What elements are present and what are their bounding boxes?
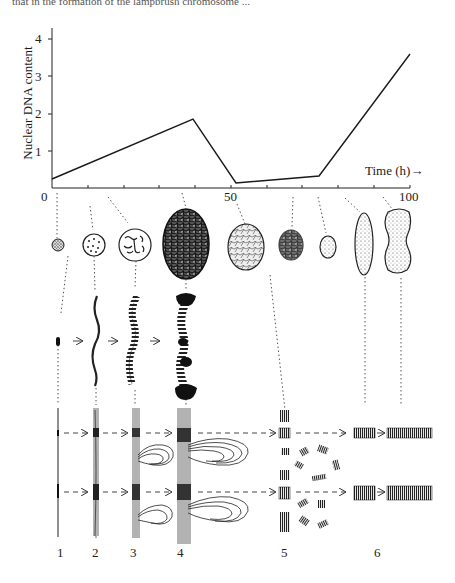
y-tick-label-4: 4 [35,31,42,47]
diagram-canvas [0,0,455,583]
dna-content-chart [48,28,410,188]
nucleus-stage-6c [385,209,411,273]
x-tick-label-0: 0 [41,189,48,205]
y-ticks [48,39,52,151]
bands-stage-6 [354,428,432,500]
nucleus-leader-lines [58,256,401,410]
nucleus-stage-2 [83,234,105,256]
x-tick-label-100: 100 [399,189,419,205]
stage-label-4: 4 [177,545,184,561]
y-tick-label-1: 1 [35,144,42,160]
y-axis-label: Nuclear DNA content [20,43,36,163]
stage-label-3: 3 [130,545,137,561]
nucleus-stage-5 [228,224,264,270]
x-axis-label: Time (h)→ [365,163,423,179]
nucleus-stage-6a [320,236,336,258]
chromosome-stage-1 [56,337,60,346]
nucleus-stage-4 [163,209,209,279]
chromosome-stage-2 [93,296,100,386]
chromosome-stage-3 [129,296,137,384]
x-tick-label-50: 50 [224,189,237,205]
nucleus-stage-1 [52,239,64,251]
stage-label-6: 6 [374,545,381,561]
dna-content-line [52,54,410,183]
stage-label-5: 5 [281,545,288,561]
fragments-stage-5 [279,410,340,532]
strand-stage-2 [94,408,98,538]
lampbrush-row [57,408,432,544]
chromosome-row [56,293,197,400]
y-tick-label-2: 2 [35,106,42,122]
chromosome-knob [176,293,196,306]
loops-stage-3 [138,445,173,524]
loops-stage-4 [188,439,248,522]
stage-label-2: 2 [92,545,99,561]
nucleus-stage-6b [355,213,373,275]
strand-stage-3 [133,408,139,538]
nuclei-row [52,209,411,279]
stage-label-1: 1 [57,545,64,561]
y-tick-label-3: 3 [35,69,42,85]
nucleus-stage-5b [279,230,303,260]
